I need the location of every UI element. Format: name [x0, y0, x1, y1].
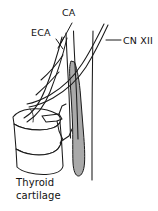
- label-eca: ECA: [31, 27, 51, 38]
- anatomical-figure: CA ECA CN XII Thyroid cartilage: [0, 0, 158, 211]
- thyroid-cartilage-group: [13, 109, 63, 175]
- branch-ascending-limb: [59, 104, 66, 114]
- label-cn12: CN XII: [123, 35, 153, 46]
- label-ca: CA: [62, 7, 76, 18]
- posterior-sheath-line: [92, 31, 93, 180]
- label-thyroid-line2: cartilage: [16, 190, 61, 201]
- carotid-sheath-group: [92, 31, 93, 180]
- label-thyroid-line1: Thyroid: [15, 177, 54, 188]
- eca-branch-upper: [41, 55, 63, 80]
- anatomy-illustration: CA ECA CN XII Thyroid cartilage: [0, 0, 158, 211]
